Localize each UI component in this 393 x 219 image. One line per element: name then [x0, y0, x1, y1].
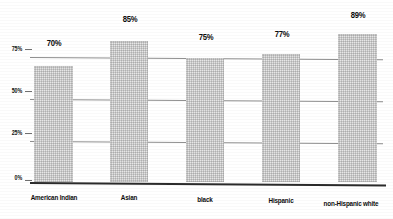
- bar-hispanic: [262, 54, 300, 182]
- value-label-hispanic: 77%: [265, 29, 299, 39]
- y-axis-tick-mark-0: [25, 180, 32, 181]
- y-axis-tick-label-0: 0%: [6, 174, 22, 181]
- value-label-black: 75%: [189, 32, 223, 42]
- y-axis-tick-label-75: 75%: [6, 45, 22, 52]
- category-label-asian: Asian: [95, 193, 164, 202]
- bar-black: [186, 58, 224, 182]
- bar-asian: [110, 41, 148, 182]
- category-label-black: black: [171, 195, 240, 204]
- bar-non-hispanic-white: [338, 34, 377, 182]
- y-axis-tick-mark-75: [25, 49, 32, 50]
- bar-american-indian: [34, 66, 73, 182]
- category-label-hispanic: Hispanic: [247, 196, 316, 205]
- value-label-non-hispanic-white: 89%: [341, 10, 375, 20]
- category-label-american-indian: American Indian: [17, 193, 91, 202]
- y-axis-tick-label-50: 50%: [6, 87, 22, 94]
- y-axis-tick-mark-25: [25, 133, 32, 134]
- y-axis-tick-label-25: 25%: [6, 129, 22, 136]
- category-label-non-hispanic-white: non-Hispanic white: [315, 199, 387, 208]
- bar-chart: 75% 50% 25% 0% 70% 85% 75% 77% 89% Ameri…: [0, 0, 393, 219]
- y-axis-tick-mark-50: [25, 91, 32, 92]
- value-label-american-indian: 70%: [37, 38, 71, 48]
- x-axis-baseline: [30, 182, 386, 186]
- value-label-asian: 85%: [113, 14, 147, 24]
